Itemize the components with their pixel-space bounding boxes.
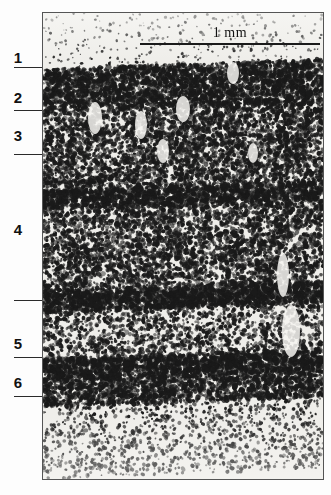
layer-label-6: 6 [0,375,36,390]
layer-label-4: 4 [0,222,36,237]
layer-label-5: 5 [0,336,36,351]
layer-tick-1 [14,67,44,68]
layer-label-1: 1 [0,50,36,65]
scale-bar-label: 1 mm [140,25,320,41]
layer-tick-5 [14,357,44,358]
layer-label-2: 2 [0,90,36,105]
layer-tick-6 [14,396,44,397]
layer-label-3: 3 [0,128,36,143]
cortex-layer-figure: 1 2 3 4 5 6 1 mm [0,0,331,495]
micrograph-panel: 1 mm [42,12,324,480]
scale-bar [140,43,320,45]
layer-tick-2 [14,110,44,111]
layer-tick-3 [14,154,44,155]
nissl-stain-texture [43,13,323,479]
layer-tick-4 [14,300,44,301]
